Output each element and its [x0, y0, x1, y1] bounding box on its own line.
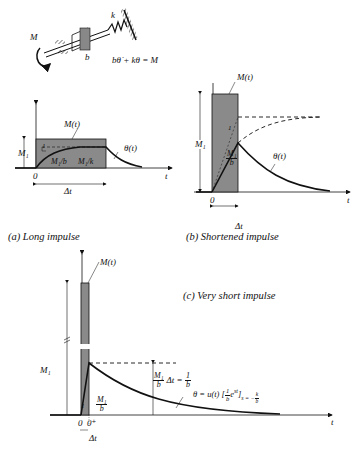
moment-label: M — [30, 33, 38, 42]
damper-label: b — [85, 53, 90, 62]
caption-a: (a) Long impulse — [8, 232, 80, 243]
pulse-a — [36, 139, 106, 168]
response-label-a: θ(t) — [124, 144, 137, 153]
jump-height-label-c: M₁b Δt = 1b — [153, 372, 191, 389]
steady-state-label-a: M₁/k — [78, 158, 93, 166]
origin-plus-label-c: 0⁺ — [87, 419, 96, 428]
caption-b: (b) Shortened impulse — [186, 232, 279, 243]
slope-label-b: M₁b — [226, 150, 237, 167]
origin-label-c: 0 — [78, 419, 83, 428]
slope-unit-c: 1 — [81, 403, 85, 410]
bearing-icon — [58, 50, 68, 54]
slope-unit-b: 1 — [228, 125, 232, 132]
slope-label-a: M₁/b — [51, 158, 67, 166]
equation-of-motion: bθ̇ + kθ = M — [112, 56, 158, 65]
caption-c: (c) Very short impulse — [183, 291, 275, 302]
origin-label-a: 0 — [33, 172, 38, 181]
bearing-icon — [55, 40, 65, 44]
damper-disk-icon — [80, 28, 90, 50]
spring-label: k — [111, 11, 115, 20]
input-label-c: M(t) — [100, 258, 116, 267]
time-axis-label-a: t — [165, 172, 168, 181]
time-axis-label-c: t — [331, 418, 334, 427]
time-axis-label-b: t — [347, 196, 350, 205]
response-equation-c: θ = u(t) [1best]s = −kb — [193, 388, 259, 404]
spring-icon — [108, 20, 127, 32]
input-label-a: M(t) — [64, 120, 80, 129]
slope-unit-a: 1 — [42, 143, 46, 150]
amplitude-label-a: M₁ — [18, 149, 29, 158]
origin-label-b: 0 — [210, 196, 215, 205]
moment-arrow-icon — [37, 48, 50, 66]
duration-label-c: Δt — [89, 434, 97, 443]
response-label-b: θ(t) — [273, 152, 286, 161]
panel-a-plot — [15, 104, 172, 184]
input-label-b: M(t) — [237, 73, 253, 82]
duration-label-b: Δt — [235, 222, 243, 231]
amplitude-label-b: M₁ — [195, 140, 206, 149]
panel-c-plot — [50, 254, 332, 430]
duration-label-a: Δt — [64, 187, 72, 196]
panel-b-plot — [194, 82, 350, 206]
slope-label-c: M₁b — [96, 396, 107, 413]
pulse-b — [212, 94, 238, 192]
amplitude-label-c: M₁ — [40, 366, 51, 375]
